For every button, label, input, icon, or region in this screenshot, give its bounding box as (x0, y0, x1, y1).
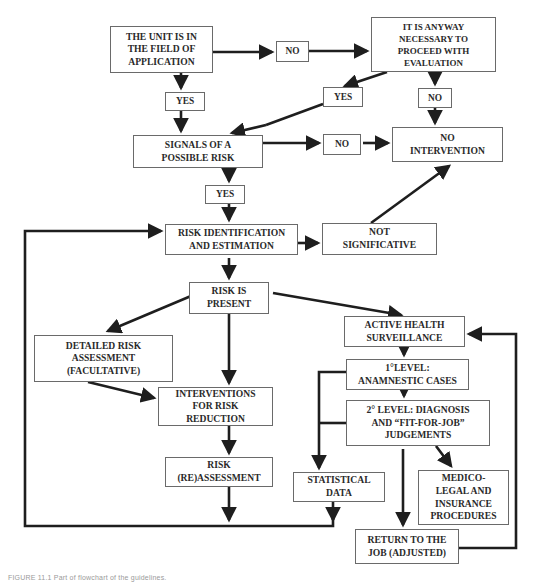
node-interventions: INTERVENTIONS FOR RISK REDUCTION (158, 387, 273, 426)
figure-caption: FIGURE 11.1 Part of flowchart of the gui… (8, 574, 167, 581)
node-return-to-job: RETURN TO THE JOB (ADJUSTED) (355, 529, 459, 564)
label-yes-left: YES (165, 92, 205, 111)
node-risk-present: RISK IS PRESENT (189, 282, 269, 314)
node-active-surveillance: ACTIVE HEALTH SURVEILLANCE (344, 316, 465, 347)
node-anyway-necessary: IT IS ANYWAY NECESSARY TO PROCEED WITH E… (371, 17, 496, 72)
node-statistical-data: STATISTICAL DATA (293, 472, 385, 502)
node-not-significative: NOT SIGNIFICATIVE (322, 223, 437, 255)
label-no-right: NO (418, 88, 452, 108)
node-detailed-assessment: DETAILED RISK ASSESSMENT (FACULTATIVE) (34, 335, 173, 382)
label-yes-signals: YES (205, 185, 245, 204)
node-unit-in-field: THE UNIT IS IN THE FIELD OF APPLICATION (110, 26, 213, 73)
label-no-mid: NO (323, 134, 361, 155)
node-no-intervention: NO INTERVENTION (392, 127, 503, 162)
node-reassessment: RISK (RE)ASSESSMENT (165, 457, 273, 487)
node-signals: SIGNALS OF A POSSIBLE RISK (133, 135, 263, 168)
node-medico-legal: MEDICO- LEGAL AND INSURANCE PROCEDURES (418, 470, 509, 525)
label-no-top: NO (276, 41, 309, 62)
node-level2: 2° LEVEL: DIAGNOSIS AND “FIT-FOR-JOB” JU… (346, 400, 490, 446)
node-risk-identification: RISK IDENTIFICATION AND ESTIMATION (165, 224, 298, 255)
node-level1: 1°LEVEL: ANAMNESTIC CASES (346, 359, 469, 390)
label-yes-mid: YES (323, 87, 363, 107)
